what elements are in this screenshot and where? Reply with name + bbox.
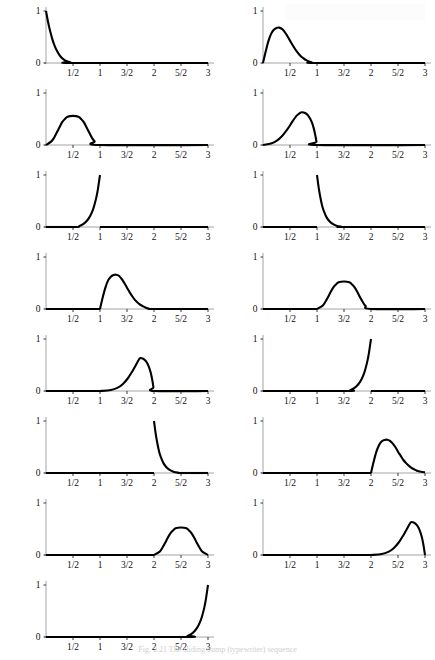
- x-tick-label: 3/2: [121, 560, 133, 570]
- x-tick-label: 3/2: [121, 232, 133, 242]
- x-tick-label: 5/2: [392, 314, 404, 324]
- plot-panel-10: 011/213/225/23: [217, 328, 435, 410]
- x-tick-label: 1: [98, 560, 103, 570]
- x-tick-label: 1/2: [284, 314, 296, 324]
- x-tick-label: 3: [206, 314, 211, 324]
- x-tick-label: 3: [423, 560, 428, 570]
- x-tick-label: 1/2: [284, 560, 296, 570]
- x-tick-label: 5/2: [175, 150, 187, 160]
- curve-path: [317, 175, 425, 227]
- y-tick-label: 1: [36, 170, 41, 180]
- y-tick-label: 0: [253, 304, 258, 314]
- x-tick-label: 5/2: [392, 68, 404, 78]
- x-tick-label: 3/2: [121, 396, 133, 406]
- x-tick-label: 3: [206, 478, 211, 488]
- plot-panel-11: 011/213/225/23: [0, 410, 217, 492]
- y-tick-label: 1: [253, 88, 258, 98]
- x-tick-label: 1: [98, 68, 103, 78]
- x-tick-label: 5/2: [175, 396, 187, 406]
- x-tick-label: 3/2: [338, 396, 350, 406]
- curve-path: [46, 585, 208, 637]
- y-tick-label: 1: [36, 498, 41, 508]
- y-tick-label: 1: [253, 334, 258, 344]
- curve-path: [263, 339, 371, 391]
- x-tick-label: 5/2: [175, 560, 187, 570]
- curve-path: [154, 421, 208, 473]
- curve-path: [100, 275, 208, 309]
- plot-panel-5: 011/213/225/23: [0, 164, 217, 246]
- x-tick-label: 1: [315, 478, 320, 488]
- x-tick-label: 1: [98, 396, 103, 406]
- x-tick-label: 1: [98, 150, 103, 160]
- x-tick-label: 2: [369, 232, 374, 242]
- plot-grid: 011/213/225/23011/213/225/23011/213/225/…: [0, 0, 435, 656]
- x-tick-label: 3: [206, 232, 211, 242]
- x-tick-label: 2: [369, 68, 374, 78]
- plot-panel-8: 011/213/225/23: [217, 246, 435, 328]
- x-tick-label: 1/2: [67, 232, 79, 242]
- curve-path: [46, 116, 208, 145]
- plot-panel-2: 011/213/225/23: [217, 0, 435, 82]
- plot-panel-12: 011/213/225/23: [217, 410, 435, 492]
- x-tick-label: 5/2: [392, 478, 404, 488]
- x-tick-label: 3: [206, 150, 211, 160]
- curve-path: [46, 11, 208, 63]
- x-tick-label: 1: [315, 396, 320, 406]
- plot-panel-7: 011/213/225/23: [0, 246, 217, 328]
- x-tick-label: 1/2: [67, 150, 79, 160]
- y-tick-label: 0: [253, 468, 258, 478]
- plot-panel-6: 011/213/225/23: [217, 164, 435, 246]
- x-tick-label: 5/2: [175, 232, 187, 242]
- curve-path: [100, 358, 208, 391]
- y-tick-label: 0: [253, 58, 258, 68]
- x-tick-label: 3: [423, 396, 428, 406]
- x-tick-label: 2: [152, 150, 157, 160]
- x-tick-label: 1: [98, 314, 103, 324]
- x-tick-label: 3/2: [338, 150, 350, 160]
- x-tick-label: 3: [206, 560, 211, 570]
- plot-panel-9: 011/213/225/23: [0, 328, 217, 410]
- x-tick-label: 1: [315, 68, 320, 78]
- y-tick-label: 0: [36, 386, 41, 396]
- x-tick-label: 3: [423, 68, 428, 78]
- x-tick-label: 5/2: [175, 314, 187, 324]
- x-tick-label: 1/2: [284, 396, 296, 406]
- curve-path: [263, 28, 425, 64]
- x-tick-label: 3/2: [338, 478, 350, 488]
- y-tick-label: 1: [36, 88, 41, 98]
- x-tick-label: 1/2: [284, 478, 296, 488]
- x-tick-label: 2: [152, 314, 157, 324]
- x-tick-label: 2: [369, 314, 374, 324]
- plot-panel-13: 011/213/225/23: [0, 492, 217, 574]
- x-tick-label: 3/2: [121, 314, 133, 324]
- x-tick-label: 1: [98, 478, 103, 488]
- curve-path: [154, 527, 208, 555]
- x-tick-label: 3: [206, 396, 211, 406]
- x-tick-label: 2: [369, 560, 374, 570]
- x-tick-label: 2: [152, 232, 157, 242]
- plot-panel-3: 011/213/225/23: [0, 82, 217, 164]
- y-tick-label: 0: [253, 550, 258, 560]
- x-tick-label: 5/2: [175, 478, 187, 488]
- x-tick-label: 1/2: [67, 478, 79, 488]
- x-tick-label: 1/2: [67, 68, 79, 78]
- x-tick-label: 3: [423, 314, 428, 324]
- x-tick-label: 5/2: [392, 560, 404, 570]
- y-tick-label: 1: [36, 416, 41, 426]
- figure-container: 011/213/225/23011/213/225/23011/213/225/…: [0, 0, 435, 660]
- x-tick-label: 5/2: [392, 396, 404, 406]
- y-tick-label: 0: [253, 140, 258, 150]
- y-tick-label: 1: [253, 498, 258, 508]
- y-tick-label: 1: [253, 6, 258, 16]
- x-tick-label: 1: [315, 232, 320, 242]
- x-tick-label: 3: [423, 232, 428, 242]
- figure-caption: Fig. 2.21 The sliding bump (typewriter) …: [0, 645, 435, 654]
- x-tick-label: 3/2: [121, 68, 133, 78]
- x-tick-label: 5/2: [392, 232, 404, 242]
- y-tick-label: 1: [253, 416, 258, 426]
- x-tick-label: 1/2: [284, 232, 296, 242]
- x-tick-label: 1: [98, 232, 103, 242]
- y-tick-label: 0: [36, 550, 41, 560]
- x-tick-label: 3/2: [338, 68, 350, 78]
- x-tick-label: 3/2: [121, 150, 133, 160]
